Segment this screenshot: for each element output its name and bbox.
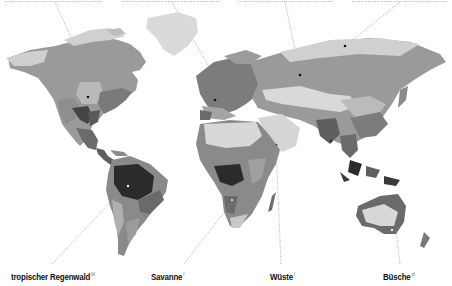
greenland [146,12,198,56]
new-zealand [420,232,430,248]
south-america [106,156,168,256]
gender-marker: W [91,271,95,277]
africa [196,120,280,228]
label-text: Büsche [383,272,411,282]
gender-marker: f [183,271,184,277]
label-text: Savanne [151,272,182,282]
label-text: tropischer Regenwald [11,272,90,282]
gender-marker: pl [411,271,414,277]
label-text: Wüste [270,272,293,282]
australia [356,194,406,234]
gender-marker: f [294,271,295,277]
label-tropical-rainforest: tropischer RegenwaldW [11,271,95,282]
north-america [6,28,146,150]
label-savanna: Savannef [151,271,184,282]
world-biome-map [0,0,452,286]
label-shrubland: Büschepl [383,271,415,282]
label-desert: Wüstef [270,271,295,282]
